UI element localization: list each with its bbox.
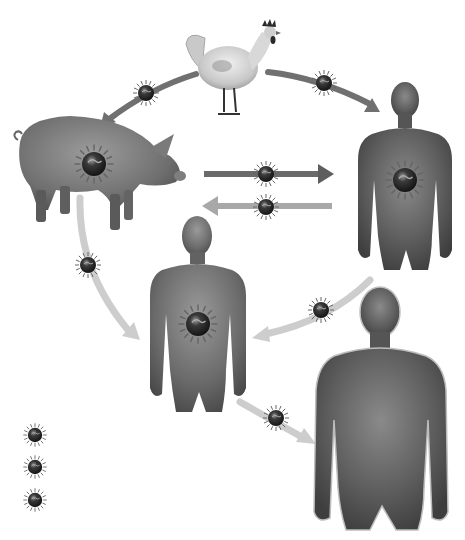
virus-icon — [308, 297, 334, 323]
virus-icon — [179, 305, 218, 344]
legend-virus-icon-2 — [23, 455, 46, 478]
virus-icon — [311, 70, 337, 96]
legend-virus-icon-3 — [23, 488, 46, 511]
legend-virus-icon-1 — [23, 423, 46, 446]
human-center-icon — [150, 216, 246, 412]
pig-icon — [14, 116, 186, 230]
transmission-diagram: Virus transmission cycle between chicken… — [0, 0, 465, 540]
legend — [23, 423, 46, 511]
chicken-icon — [186, 19, 281, 114]
virus-icon — [253, 194, 279, 220]
arrow-human-top-to-human-center — [252, 280, 370, 342]
virus-icon — [263, 405, 289, 431]
human-bottom-right-icon — [314, 287, 448, 530]
arrow-chicken-to-pig — [100, 74, 196, 128]
virus-icon — [133, 80, 159, 106]
virus-icon — [386, 161, 425, 200]
virus-icon — [75, 145, 114, 184]
virus-icon — [253, 161, 279, 187]
virus-icon — [75, 252, 101, 278]
